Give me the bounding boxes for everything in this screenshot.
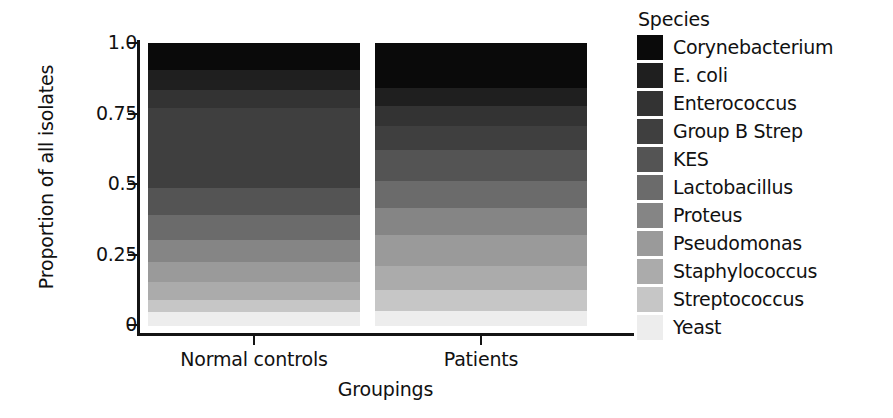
x-tick-mark [480,336,482,345]
legend-label: Yeast [673,316,721,338]
x-tick-label: Patients [361,348,601,370]
bar-segment[interactable] [148,215,360,241]
legend-label: Lactobacillus [673,176,793,198]
bar-segment[interactable] [375,126,587,151]
y-tick-label: 1.0 [63,31,137,53]
legend-label: Pseudomonas [673,232,802,254]
bar-segment[interactable] [375,311,587,326]
bar-segment[interactable] [148,262,360,283]
legend-item[interactable]: Pseudomonas [637,229,887,257]
legend-item[interactable]: Proteus [637,201,887,229]
bar-segment[interactable] [375,43,587,89]
legend-item[interactable]: Enterococcus [637,89,887,117]
bar-segment[interactable] [148,240,360,262]
legend-swatch-icon [637,175,663,200]
legend-swatch-icon [637,203,663,228]
y-axis-ticks: 00.250.50.751.0 [0,0,137,418]
legend-swatch-icon [637,259,663,284]
legend-swatch-icon [637,147,663,172]
legend-label: Corynebacterium [673,36,833,58]
bar-segment[interactable] [148,282,360,300]
legend: Species CorynebacteriumE. coliEnterococc… [637,8,887,341]
bar-segment[interactable] [375,181,587,208]
bar-segment[interactable] [148,312,360,326]
legend-swatch-icon [637,315,663,340]
x-tick-mark [253,336,255,345]
legend-label: Proteus [673,204,742,226]
bar-segment[interactable] [148,108,360,189]
legend-item[interactable]: Lactobacillus [637,173,887,201]
x-axis-line [137,333,634,336]
chart-figure: Proportion of all isolates 00.250.50.751… [0,0,893,418]
bar-segment[interactable] [375,88,587,107]
legend-swatch-icon [637,35,663,60]
bar-stack[interactable] [375,43,587,325]
legend-item[interactable]: Streptococcus [637,285,887,313]
legend-swatch-icon [637,287,663,312]
legend-swatch-icon [637,91,663,116]
x-tick-label: Normal controls [134,348,374,370]
legend-label: KES [673,148,709,170]
bar-segment[interactable] [375,266,587,291]
legend-item[interactable]: Group B Strep [637,117,887,145]
y-tick-label: 0 [63,313,137,335]
legend-swatch-icon [637,63,663,88]
legend-swatch-icon [637,231,663,256]
legend-label: E. coli [673,64,728,86]
bar-segment[interactable] [375,106,587,126]
bar-segment[interactable] [375,208,587,235]
y-tick-label: 0.75 [63,102,137,124]
bar-segment[interactable] [148,43,360,70]
legend-item[interactable]: Corynebacterium [637,33,887,61]
bar-segment[interactable] [375,290,587,312]
plot-area [140,40,634,333]
legend-label: Staphylococcus [673,260,817,282]
bar-segment[interactable] [148,300,360,313]
legend-label: Group B Strep [673,120,803,142]
legend-items: CorynebacteriumE. coliEnterococcusGroup … [637,33,887,341]
bar-segment[interactable] [148,188,360,215]
y-tick-label: 0.5 [63,172,137,194]
legend-label: Streptococcus [673,288,804,310]
y-tick-label: 0.25 [63,243,137,265]
legend-swatch-icon [637,119,663,144]
bar-stack[interactable] [148,43,360,325]
x-axis-title: Groupings [137,378,634,400]
bar-segment[interactable] [375,150,587,182]
bar-segment[interactable] [148,90,360,109]
legend-title: Species [638,8,887,30]
legend-item[interactable]: E. coli [637,61,887,89]
bar-segment[interactable] [148,70,360,90]
legend-item[interactable]: Yeast [637,313,887,341]
bar-segment[interactable] [375,235,587,267]
legend-item[interactable]: KES [637,145,887,173]
legend-item[interactable]: Staphylococcus [637,257,887,285]
legend-label: Enterococcus [673,92,797,114]
